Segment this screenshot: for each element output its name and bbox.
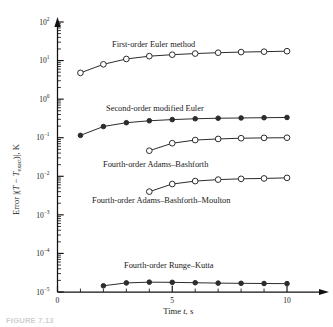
data-point-filled: [193, 116, 198, 121]
data-point-open: [169, 140, 175, 146]
x-axis-label: Time t, s: [163, 306, 193, 316]
chart-series: [146, 135, 289, 154]
data-point-filled: [170, 117, 175, 122]
y-axis-tick-label: 10−3: [36, 211, 49, 220]
data-point-filled: [262, 115, 267, 120]
data-point-filled: [239, 116, 244, 121]
y-axis-tick-label: 102: [39, 18, 49, 27]
x-axis-tick-label: 0: [56, 296, 60, 305]
series-annotation: Second-order modified Euler: [106, 104, 204, 113]
y-axis-tick-label: 10−1: [36, 133, 49, 142]
data-point-open: [215, 177, 221, 183]
chart-series: [101, 280, 289, 288]
data-point-open: [215, 136, 221, 142]
data-point-open: [169, 181, 175, 187]
y-axis-tick-label: 100: [39, 95, 49, 104]
data-point-filled: [262, 281, 267, 286]
series-line: [80, 51, 287, 73]
data-point-open: [238, 176, 244, 182]
x-axis-tick-label: 10: [283, 296, 291, 305]
data-point-open: [192, 178, 198, 184]
data-point-open: [101, 61, 107, 67]
figure-caption: FIGURE 7.13: [6, 316, 54, 325]
data-point-filled: [124, 120, 129, 125]
data-point-open: [146, 189, 152, 195]
y-axis-tick-label: 10−4: [36, 249, 49, 258]
data-point-open: [146, 53, 152, 59]
data-point-open: [238, 135, 244, 141]
data-point-open: [238, 49, 244, 55]
series-annotation: First-order Euler method: [112, 40, 195, 49]
data-point-filled: [147, 118, 152, 123]
x-axis-tick-label: 5: [170, 296, 174, 305]
data-point-filled: [147, 280, 152, 285]
data-point-open: [261, 49, 267, 55]
series-annotation: Fourth-order Adams–Bashforth–Moulton: [92, 196, 230, 205]
data-point-filled: [216, 116, 221, 121]
data-point-filled: [285, 115, 290, 120]
y-axis-label: Error |(T − Texact)|, K: [11, 144, 21, 215]
y-axis-tick-label: 10−2: [36, 172, 49, 181]
data-point-filled: [239, 281, 244, 286]
data-point-open: [284, 175, 290, 181]
data-point-open: [284, 135, 290, 141]
series-annotation: Fourth-order Runge–Kutta: [124, 261, 214, 270]
chart-series: [146, 175, 289, 194]
chart-series: [78, 48, 290, 75]
data-point-open: [261, 176, 267, 182]
series-annotation: Fourth-order Adams–Bashforth: [103, 160, 208, 169]
y-axis-tick-label: 101: [39, 56, 49, 65]
figure-container: Error |(T − Texact)|, K FIGURE 7.13 1021…: [0, 0, 333, 327]
data-point-open: [192, 137, 198, 143]
data-point-filled: [124, 281, 129, 286]
data-point-filled: [193, 280, 198, 285]
data-point-filled: [101, 124, 106, 129]
data-point-filled: [170, 280, 175, 285]
data-point-open: [192, 51, 198, 57]
data-point-open: [146, 148, 152, 154]
data-point-filled: [216, 281, 221, 286]
chart-series: [78, 115, 289, 138]
data-point-open: [284, 48, 290, 54]
data-point-open: [78, 70, 84, 76]
data-point-filled: [285, 281, 290, 286]
data-point-filled: [78, 133, 83, 138]
data-point-open: [261, 135, 267, 141]
series-line: [80, 117, 287, 135]
data-point-open: [169, 52, 175, 58]
data-point-filled: [101, 283, 106, 288]
x-axis-arrowhead: [319, 289, 329, 295]
y-axis-tick-label: 10−5: [36, 288, 49, 297]
data-point-open: [215, 50, 221, 56]
data-point-open: [124, 56, 130, 62]
